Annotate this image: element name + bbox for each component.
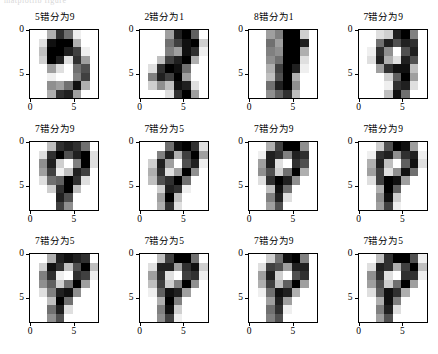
image-pixel (292, 81, 301, 90)
image-pixel (266, 193, 275, 202)
digit-image (249, 254, 317, 322)
image-pixel (300, 202, 309, 211)
image-pixel (73, 151, 82, 160)
x-tick-label: 5 (71, 103, 76, 113)
image-pixel (140, 280, 149, 289)
image-pixel (157, 81, 166, 90)
y-tick-mark (245, 30, 249, 31)
image-pixel (56, 176, 65, 185)
image-pixel (258, 314, 267, 323)
image-pixel (148, 314, 157, 323)
image-pixel (148, 151, 157, 160)
image-pixel (292, 314, 301, 323)
y-tick-label: 0 (129, 137, 134, 147)
image-pixel (47, 142, 56, 151)
image-pixel (258, 297, 267, 306)
image-pixel (359, 39, 368, 48)
subplot-title: 7错分为5 (329, 236, 438, 247)
image-pixel (199, 288, 208, 297)
image-pixel (275, 81, 284, 90)
subplot-panel: 7错分为90505 (329, 8, 438, 120)
image-pixel (191, 254, 200, 263)
image-pixel (199, 297, 208, 306)
image-pixel (182, 288, 191, 297)
image-pixel (393, 271, 402, 280)
y-tick-mark (245, 254, 249, 255)
image-pixel (410, 151, 419, 160)
image-pixel (64, 168, 73, 177)
image-pixel (73, 168, 82, 177)
image-pixel (300, 30, 309, 39)
subplot-panel: 7错分为90505 (219, 120, 329, 232)
image-pixel (266, 47, 275, 56)
image-pixel (30, 90, 39, 99)
image-pixel (30, 168, 39, 177)
axes-box: 0505 (139, 141, 209, 211)
x-tick-label: 5 (181, 327, 186, 337)
image-pixel (309, 297, 318, 306)
clipped-top-text: matplotlib figure (4, 0, 67, 5)
image-pixel (182, 271, 191, 280)
image-pixel (384, 56, 393, 65)
image-pixel (157, 64, 166, 73)
image-pixel (174, 30, 183, 39)
image-pixel (174, 64, 183, 73)
image-pixel (56, 159, 65, 168)
image-pixel (418, 159, 427, 168)
image-pixel (157, 39, 166, 48)
image-pixel (266, 288, 275, 297)
image-pixel (148, 297, 157, 306)
image-pixel (148, 288, 157, 297)
image-pixel (64, 288, 73, 297)
image-pixel (191, 176, 200, 185)
x-tick-label: 5 (71, 215, 76, 225)
image-pixel (81, 30, 90, 39)
image-pixel (401, 305, 410, 314)
image-pixel (47, 288, 56, 297)
image-pixel (401, 271, 410, 280)
image-pixel (300, 90, 309, 99)
image-pixel (393, 142, 402, 151)
image-pixel (90, 297, 99, 306)
image-pixel (140, 185, 149, 194)
image-pixel (191, 30, 200, 39)
x-tick-label: 0 (356, 327, 361, 337)
image-pixel (165, 297, 174, 306)
y-tick-label: 0 (19, 137, 24, 147)
image-pixel (39, 176, 48, 185)
image-pixel (300, 168, 309, 177)
image-pixel (165, 30, 174, 39)
image-pixel (199, 185, 208, 194)
image-pixel (199, 64, 208, 73)
image-pixel (384, 314, 393, 323)
image-pixel (182, 90, 191, 99)
image-pixel (275, 263, 284, 272)
y-tick-label: 0 (19, 25, 24, 35)
image-pixel (300, 193, 309, 202)
image-pixel (309, 280, 318, 289)
image-pixel (182, 254, 191, 263)
image-pixel (30, 30, 39, 39)
image-pixel (258, 73, 267, 82)
image-pixel (275, 305, 284, 314)
image-pixel (410, 271, 419, 280)
digit-image (249, 30, 317, 98)
image-pixel (73, 39, 82, 48)
image-pixel (376, 263, 385, 272)
image-pixel (359, 90, 368, 99)
image-pixel (384, 193, 393, 202)
image-pixel (401, 64, 410, 73)
image-pixel (73, 280, 82, 289)
image-pixel (140, 39, 149, 48)
image-pixel (182, 39, 191, 48)
image-pixel (148, 168, 157, 177)
image-pixel (410, 263, 419, 272)
image-pixel (418, 288, 427, 297)
image-pixel (300, 64, 309, 73)
digit-image (30, 254, 98, 322)
image-pixel (292, 56, 301, 65)
image-pixel (39, 30, 48, 39)
image-pixel (56, 81, 65, 90)
image-pixel (182, 30, 191, 39)
image-pixel (81, 47, 90, 56)
